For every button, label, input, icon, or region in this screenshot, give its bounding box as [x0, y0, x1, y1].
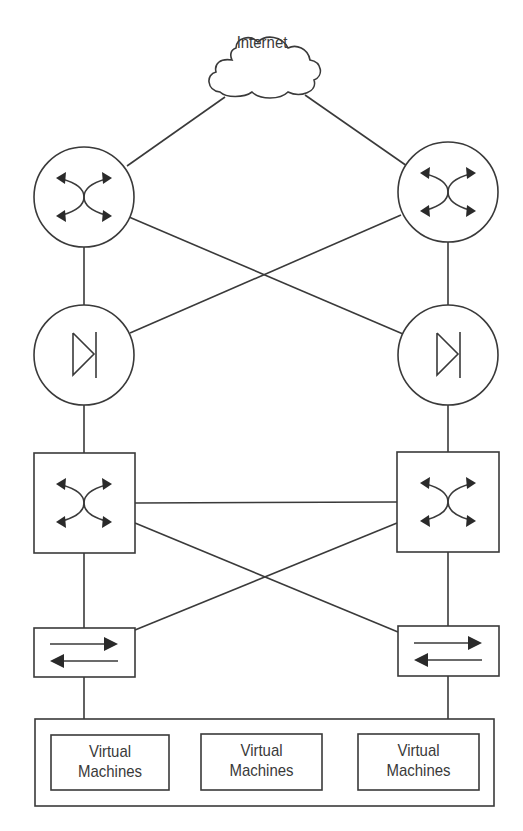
vm-box-2-label: Virtual Machines: [208, 741, 314, 781]
connection-lines: [84, 95, 448, 719]
vm-box-3-line1: Virtual: [365, 741, 471, 761]
firewall-right-icon: [398, 305, 498, 405]
core-switch-right-icon: [397, 452, 499, 552]
vm-box-2-line2: Machines: [208, 761, 314, 781]
vm-box-1-label: Virtual Machines: [58, 742, 162, 782]
firewall-left-icon: [34, 305, 134, 405]
network-diagram: [0, 0, 523, 831]
router-right-icon: [398, 142, 498, 242]
vm-box-3-label: Virtual Machines: [365, 741, 471, 781]
core-switch-left-icon: [34, 453, 135, 553]
vm-box-3-line2: Machines: [365, 761, 471, 781]
vm-box-2-line1: Virtual: [208, 741, 314, 761]
router-left-icon: [34, 147, 134, 247]
internet-label: Internet: [222, 33, 301, 53]
vm-box-1-line1: Virtual: [58, 742, 162, 762]
access-switch-right-icon: [398, 626, 499, 676]
access-switch-left-icon: [34, 628, 135, 677]
vm-box-1-line2: Machines: [58, 762, 162, 782]
